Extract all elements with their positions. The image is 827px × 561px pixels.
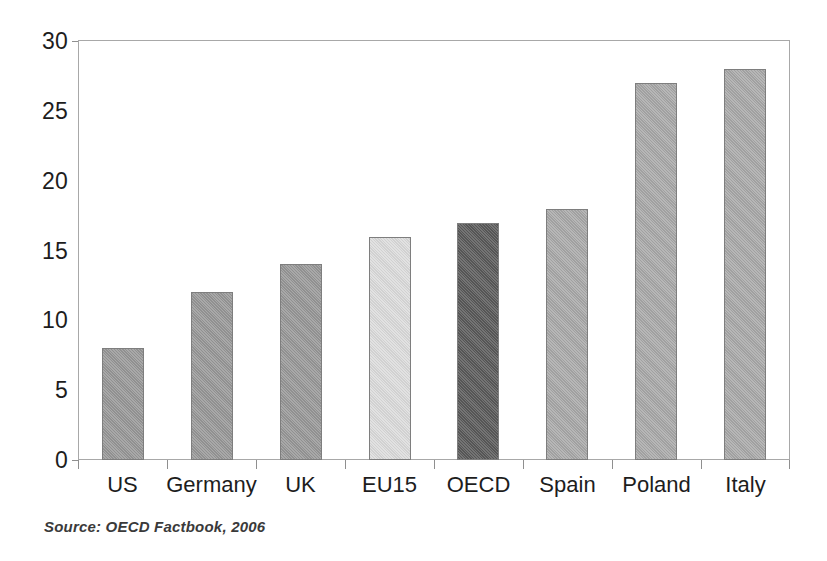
bar-italy[interactable]	[724, 69, 766, 460]
bar-oecd[interactable]	[457, 223, 499, 460]
x-tick-label-poland: Poland	[622, 472, 691, 498]
source-note: Source: OECD Factbook, 2006	[44, 518, 265, 535]
y-tick-label: 20	[42, 167, 68, 194]
bar-slot	[700, 41, 789, 460]
bar-spain[interactable]	[546, 209, 588, 460]
x-tick-mark	[612, 460, 613, 469]
bar-slot	[257, 41, 346, 460]
bar-germany[interactable]	[191, 292, 233, 460]
x-tick-mark	[167, 460, 168, 469]
bar-slot	[434, 41, 523, 460]
x-tick-mark	[523, 460, 524, 469]
y-tick-label: 5	[55, 377, 68, 404]
chart-page: 051015202530 USGermanyUKEU15OECDSpainPol…	[0, 0, 827, 561]
x-axis-ticks	[78, 460, 790, 470]
y-axis: 051015202530	[0, 40, 68, 460]
bar-slot	[79, 41, 168, 460]
bar-slot	[345, 41, 434, 460]
bar-slot	[612, 41, 701, 460]
bars-container	[79, 41, 789, 460]
bar-us[interactable]	[102, 348, 144, 460]
x-tick-mark	[789, 460, 790, 469]
bar-slot	[523, 41, 612, 460]
x-tick-label-uk: UK	[285, 472, 316, 498]
x-axis: USGermanyUKEU15OECDSpainPolandItaly	[78, 472, 790, 502]
y-tick-label: 30	[42, 28, 68, 55]
bar-eu15[interactable]	[369, 237, 411, 460]
x-tick-label-oecd: OECD	[447, 472, 511, 498]
y-tick-label: 0	[55, 447, 68, 474]
bar-uk[interactable]	[280, 264, 322, 460]
y-tick-label: 10	[42, 307, 68, 334]
x-tick-label-eu15: EU15	[362, 472, 417, 498]
bar-poland[interactable]	[635, 83, 677, 460]
x-tick-mark	[78, 460, 79, 469]
x-tick-label-germany: Germany	[166, 472, 256, 498]
y-tick-label: 25	[42, 97, 68, 124]
bar-slot	[168, 41, 257, 460]
x-tick-label-italy: Italy	[725, 472, 765, 498]
x-tick-mark	[701, 460, 702, 469]
x-tick-label-spain: Spain	[539, 472, 595, 498]
x-tick-mark	[345, 460, 346, 469]
x-tick-mark	[434, 460, 435, 469]
y-tick-label: 15	[42, 237, 68, 264]
x-tick-mark	[256, 460, 257, 469]
x-tick-label-us: US	[107, 472, 138, 498]
